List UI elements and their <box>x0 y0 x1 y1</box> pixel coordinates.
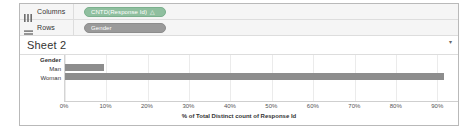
x-tick-label: 10% <box>99 103 111 109</box>
tableau-worksheet-window: Columns CNTD(Response Id) △ Rows <box>19 3 459 126</box>
pill-cntd-response-id-label: CNTD(Response Id) <box>91 9 147 15</box>
x-tick-label: 20% <box>141 103 153 109</box>
x-tick-label: 30% <box>182 103 194 109</box>
chart-area: Gender Man Woman 0%10%20%30%40%50%60%70%… <box>20 55 458 125</box>
x-tick-label: 0% <box>60 103 69 109</box>
plot-region: Gender Man Woman <box>20 55 458 101</box>
page-title: Sheet 2 <box>27 39 66 51</box>
bar-woman[interactable] <box>65 73 444 80</box>
x-tick-label: 60% <box>307 103 319 109</box>
shelf-area: Columns CNTD(Response Id) △ Rows <box>20 4 458 36</box>
x-tick-label: 80% <box>390 103 402 109</box>
rows-icon <box>24 24 33 32</box>
columns-icon <box>24 8 33 16</box>
x-tick-label: 70% <box>348 103 360 109</box>
x-tick-label: 50% <box>265 103 277 109</box>
columns-shelf[interactable]: Columns CNTD(Response Id) △ <box>20 4 458 20</box>
field-caption-gender: Gender <box>40 57 61 63</box>
sheet-title-bar: Sheet 2 ▾ <box>20 36 458 55</box>
x-axis: 0%10%20%30%40%50%60%70%80%90% % of Total… <box>20 101 458 125</box>
x-axis-title: % of Total Distinct count of Response Id <box>20 113 458 119</box>
rows-shelf-header: Rows <box>20 20 74 35</box>
bar-man[interactable] <box>65 64 104 71</box>
bar-panes <box>64 55 458 101</box>
pill-gender-label: Gender <box>91 25 112 31</box>
pill-gender[interactable]: Gender <box>84 23 166 33</box>
row-label-woman: Woman <box>40 75 61 81</box>
pill-cntd-response-id[interactable]: CNTD(Response Id) △ <box>84 7 166 17</box>
rows-shelf-track[interactable]: Gender <box>74 20 458 35</box>
rows-shelf[interactable]: Rows Gender <box>20 20 458 36</box>
x-axis-line <box>64 101 458 102</box>
triangle-warning-icon: △ <box>150 9 155 15</box>
x-tick-label: 90% <box>431 103 443 109</box>
columns-shelf-track[interactable]: CNTD(Response Id) △ <box>74 4 458 19</box>
rows-shelf-label: Rows <box>37 24 55 31</box>
columns-shelf-label: Columns <box>37 8 65 15</box>
x-tick-label: 40% <box>224 103 236 109</box>
row-label-man: Man <box>49 66 61 72</box>
row-header-column: Gender Man Woman <box>20 55 64 101</box>
columns-shelf-header: Columns <box>20 4 74 19</box>
chevron-down-icon[interactable]: ▾ <box>449 39 452 51</box>
